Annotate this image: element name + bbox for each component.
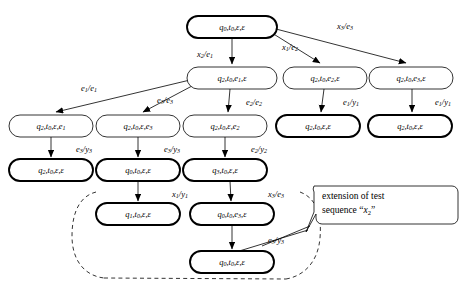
state-node: q2,t0,ε,ε: [276, 115, 360, 137]
state-node: q2,t0,ε,ε: [9, 159, 93, 181]
edge-label: e2/y2: [251, 144, 267, 154]
callout-layer: extension of test sequence “x2”: [322, 191, 385, 216]
edge-label: x3/e3: [336, 21, 353, 31]
state-node: q1,t0,ε,ε: [96, 203, 180, 225]
state-node: q2,t0,e2,ε: [283, 67, 367, 89]
edge-label: x2/e1: [196, 49, 213, 59]
state-node: q0,t0,ε,ε: [190, 251, 274, 273]
state-node: q2,t0,ε,e3: [96, 115, 180, 137]
state-node: q2,t0,ε,e1: [9, 115, 93, 137]
state-node: q2,t0,ε,ε: [368, 115, 452, 137]
edge-label: x1/y1: [171, 189, 188, 199]
edge-label: e3/e3: [157, 95, 173, 105]
edge-label: x1/e2: [281, 42, 298, 52]
edge-label: e3/y3: [268, 235, 284, 245]
callout-line-1: extension of test: [322, 191, 385, 201]
edge-label: x3/e3: [267, 189, 284, 199]
state-node: q2,t0,e1,ε: [187, 67, 277, 89]
edge-label: e1/y1: [343, 97, 359, 107]
state-node: q2,t0,ε,e2: [183, 115, 267, 137]
edge-label: e1/y1: [435, 97, 451, 107]
state-node: q2,t0,e3,ε: [369, 67, 453, 89]
edge-label: e3/y3: [76, 144, 92, 154]
state-node: q3,t0,ε,ε: [183, 159, 267, 181]
diagram-canvas: q0,t0,ε,εq2,t0,e1,εq2,t0,e2,εq2,t0,e3,εq…: [0, 0, 464, 292]
state-node: q0,t0,ε,ε: [96, 159, 180, 181]
edge-label: e3/y3: [164, 144, 180, 154]
diagram-text-layer: q0,t0,ε,εq2,t0,e1,εq2,t0,e2,εq2,t0,e3,εq…: [0, 0, 464, 292]
callout-line-2: sequence “x2”: [322, 205, 375, 216]
edge-label: e1/e1: [81, 83, 97, 93]
state-node: q0,t0,e3,ε: [190, 203, 274, 225]
state-node: q0,t0,ε,ε: [187, 16, 277, 38]
edge-label: e2/e2: [246, 97, 262, 107]
